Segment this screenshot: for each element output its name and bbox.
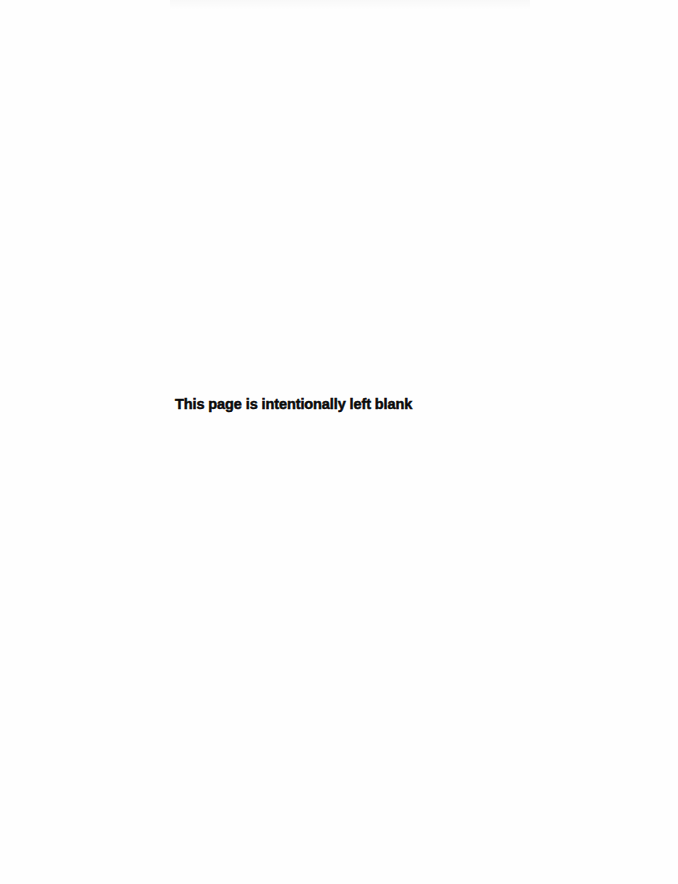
- faint-bleed-through: [170, 0, 530, 10]
- blank-page: This page is intentionally left blank: [0, 0, 678, 884]
- blank-page-notice: This page is intentionally left blank: [175, 396, 412, 412]
